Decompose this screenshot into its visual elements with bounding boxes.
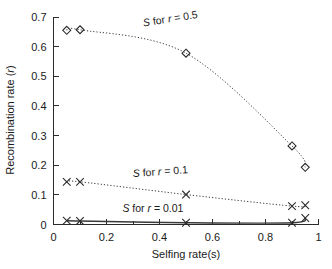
axis-lines <box>54 17 319 225</box>
data-point-marker <box>76 26 84 34</box>
series-label: S for r = 0.5 <box>142 8 199 29</box>
y-tick-label: 0.4 <box>31 100 46 112</box>
x-tick-label: 0.8 <box>258 231 273 243</box>
y-axis-ticks <box>54 17 59 225</box>
chart-canvas: 00.10.20.30.40.50.60.7 00.20.40.60.81 S … <box>0 0 332 269</box>
data-point-marker <box>182 49 190 57</box>
x-axis-tick-labels: 00.20.40.60.81 <box>50 231 321 243</box>
series-label: S for r = 0.1 <box>132 163 188 179</box>
x-tick-label: 0.2 <box>99 231 114 243</box>
x-axis-title: Selfing rate(s) <box>152 248 220 260</box>
series-annotations: S for r = 0.5S for r = 0.1S for r = 0.01 <box>122 8 198 214</box>
y-tick-label: 0.3 <box>31 130 46 142</box>
data-point-marker <box>63 26 71 34</box>
y-axis-tick-labels: 00.10.20.30.40.50.60.7 <box>31 11 46 231</box>
x-tick-label: 0.6 <box>205 231 220 243</box>
series-label: S for r = 0.01 <box>122 202 183 214</box>
data-point-marker <box>301 201 309 209</box>
data-point-marker <box>182 191 190 199</box>
y-tick-label: 0.6 <box>31 41 46 53</box>
recombination-rate-chart: 00.10.20.30.40.50.60.7 00.20.40.60.81 S … <box>0 0 332 269</box>
y-axis-title: Recombination rate (r) <box>4 65 16 174</box>
data-point-marker <box>63 178 71 186</box>
y-tick-label: 0.2 <box>31 159 46 171</box>
x-tick-label: 0 <box>50 231 56 243</box>
y-tick-label: 0.1 <box>31 189 46 201</box>
y-tick-label: 0.7 <box>31 11 46 23</box>
x-tick-label: 0.4 <box>152 231 167 243</box>
x-tick-label: 1 <box>315 231 321 243</box>
y-tick-label: 0.5 <box>31 70 46 82</box>
y-tick-label: 0 <box>40 219 46 231</box>
